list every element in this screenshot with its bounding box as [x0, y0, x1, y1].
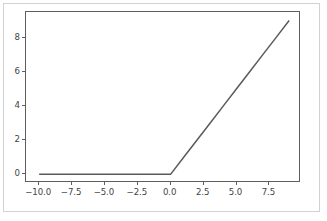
x-tick-label: −2.5 [127, 187, 147, 197]
x-tick-label: 2.5 [196, 187, 209, 197]
y-tick-label: 8 [15, 32, 20, 42]
y-tick-mark [22, 105, 25, 106]
x-tick-mark [38, 182, 39, 185]
x-tick-mark [137, 182, 138, 185]
y-tick-label: 6 [15, 66, 20, 76]
y-tick-mark [22, 37, 25, 38]
plot-line-layer [26, 12, 301, 183]
y-tick-label: 4 [15, 100, 20, 110]
x-tick-label: −7.5 [61, 187, 81, 197]
relu-line-series [39, 21, 289, 175]
x-tick-label: 5.0 [229, 187, 242, 197]
x-tick-label: −10.0 [25, 187, 51, 197]
x-tick-label: 7.5 [262, 187, 275, 197]
x-tick-label: −5.0 [94, 187, 114, 197]
y-tick-label: 2 [15, 134, 20, 144]
x-tick-mark [236, 182, 237, 185]
y-tick-label: 0 [15, 168, 20, 178]
relu-chart-figure: −10.0−7.5−5.0−2.50.02.55.07.5 02468 [0, 0, 327, 221]
plot-axes-area [25, 11, 300, 182]
x-tick-mark [71, 182, 72, 185]
y-tick-mark [22, 173, 25, 174]
x-tick-label: 0.0 [163, 187, 176, 197]
y-tick-mark [22, 71, 25, 72]
y-tick-mark [22, 139, 25, 140]
x-tick-mark [203, 182, 204, 185]
x-tick-mark [170, 182, 171, 185]
x-tick-mark [104, 182, 105, 185]
x-tick-mark [268, 182, 269, 185]
